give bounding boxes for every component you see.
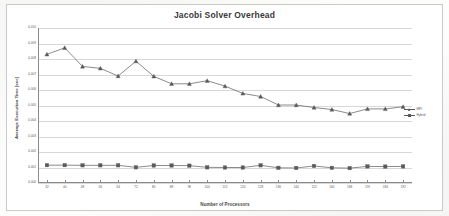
data-point-marker [63, 163, 66, 166]
series-layer [38, 28, 412, 183]
x-axis-tick-label: 184 [383, 186, 388, 189]
data-point-marker [63, 46, 67, 50]
data-point-marker [205, 79, 209, 83]
data-point-marker [152, 164, 155, 167]
data-point-marker [134, 59, 138, 63]
data-point-marker [384, 165, 387, 168]
data-point-marker [205, 166, 208, 169]
screenshot-page: Jacobi Solver Overhead Average Execution… [0, 0, 449, 216]
triangle-marker-icon [404, 107, 415, 112]
y-axis-tick-label: 0.001 [28, 166, 36, 169]
x-axis-tick-label: 168 [347, 186, 352, 189]
x-axis-tick-label: 32 [45, 186, 48, 189]
series-1 [45, 46, 405, 115]
x-axis-tick-label: 48 [81, 186, 84, 189]
y-axis-tick-label: 0.007 [28, 73, 36, 76]
data-point-marker [330, 166, 333, 169]
data-point-marker [99, 164, 102, 167]
y-axis-tick-label: 0.003 [28, 135, 36, 138]
data-point-marker [223, 166, 226, 169]
x-axis-tick-label: 176 [365, 186, 370, 189]
x-axis-tick-label: 120 [240, 186, 245, 189]
y-axis-tick-label: 0.010 [28, 26, 36, 29]
x-axis-title: Number of Processors [38, 202, 412, 207]
y-axis-tick-label: 0.005 [28, 104, 36, 107]
data-point-marker [259, 164, 262, 167]
x-axis-tick-label: 192 [401, 186, 406, 189]
data-point-marker [295, 166, 298, 169]
x-axis-tick-label: 88 [170, 186, 173, 189]
series-2 [45, 163, 405, 169]
x-axis-tick-label: 112 [223, 186, 228, 189]
x-axis-tick-label: 40 [63, 186, 66, 189]
y-axis-title: Average Execution Time [sec] [14, 76, 19, 138]
data-point-marker [348, 166, 351, 169]
data-point-marker [401, 165, 404, 168]
x-axis-tick-label: 104 [205, 186, 210, 189]
gridline [38, 183, 412, 184]
chart-legend: MPIHybrid [404, 106, 440, 118]
data-point-marker [312, 164, 315, 167]
y-axis-tick-label: 0.000 [28, 181, 36, 184]
data-point-marker [277, 166, 280, 169]
series-line [47, 48, 403, 114]
y-axis-tick-label: 0.002 [28, 150, 36, 153]
data-point-marker [241, 91, 245, 95]
x-axis-tick-label: 128 [258, 186, 263, 189]
data-point-marker [188, 164, 191, 167]
data-point-marker [134, 166, 137, 169]
y-axis-tick-label: 0.008 [28, 57, 36, 60]
chart-title: Jacobi Solver Overhead [7, 10, 442, 20]
data-point-marker [366, 165, 369, 168]
data-point-marker [241, 166, 244, 169]
x-axis-tick-label: 160 [329, 186, 334, 189]
legend-label: MPI [417, 107, 423, 111]
square-marker-icon [404, 113, 415, 118]
x-axis-tick-label: 80 [152, 186, 155, 189]
y-axis-tick-label: 0.009 [28, 42, 36, 45]
y-axis-tick-label: 0.004 [28, 119, 36, 122]
legend-item[interactable]: Hybrid [404, 112, 440, 118]
plot-area: 0.0100.0090.0080.0070.0060.0050.0040.003… [38, 28, 412, 183]
data-point-marker [116, 164, 119, 167]
x-axis-tick-label: 56 [99, 186, 102, 189]
x-axis-tick-label: 136 [276, 186, 281, 189]
legend-label: Hybrid [417, 113, 426, 117]
x-axis-tick-label: 72 [134, 186, 137, 189]
chart-container: Jacobi Solver Overhead Average Execution… [6, 4, 443, 211]
x-axis-tick-label: 152 [311, 186, 316, 189]
data-point-marker [45, 163, 48, 166]
data-point-marker [81, 164, 84, 167]
x-axis-tick-label: 144 [294, 186, 299, 189]
x-axis-tick-label: 64 [116, 186, 119, 189]
data-point-marker [170, 164, 173, 167]
x-axis-tick-label: 96 [188, 186, 191, 189]
y-axis-tick-label: 0.006 [28, 88, 36, 91]
